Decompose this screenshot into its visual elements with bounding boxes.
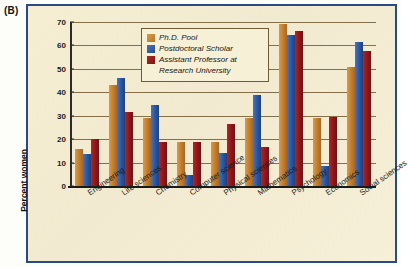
- bar: [295, 31, 303, 186]
- bar-group: [274, 22, 308, 186]
- y-axis-tick-label: 10: [57, 158, 66, 167]
- legend-label-assistant-prof-line2: Research University: [159, 66, 231, 76]
- y-axis-tick-label: 30: [57, 111, 66, 120]
- legend-label-phd-pool: Ph.D. Pool: [159, 33, 197, 43]
- legend-item-continuation: Research University: [147, 66, 263, 76]
- legend-swatch-postdoc-icon: [147, 45, 155, 53]
- y-axis-tick-mark: [70, 22, 74, 23]
- chart-frame: Percent women 010203040506070 Engineerin…: [26, 4, 397, 263]
- bar: [125, 112, 133, 186]
- y-axis-tick-label: 20: [57, 135, 66, 144]
- legend-label-postdoc: Postdoctoral Scholar: [159, 44, 233, 54]
- y-axis-tick-mark: [70, 139, 74, 140]
- y-axis-tick-label: 40: [57, 88, 66, 97]
- legend-item: Ph.D. Pool: [147, 33, 263, 43]
- y-axis-tick-mark: [70, 68, 74, 69]
- bar: [287, 35, 295, 186]
- bar: [355, 42, 363, 186]
- legend-swatch-assistant-prof-icon: [147, 56, 155, 64]
- legend-item: Postdoctoral Scholar: [147, 44, 263, 54]
- y-axis-tick-label: 70: [57, 18, 66, 27]
- chart-legend: Ph.D. Pool Postdoctoral Scholar Assistan…: [141, 28, 269, 82]
- y-axis-tick-label: 0: [62, 182, 66, 191]
- bar: [329, 117, 337, 186]
- bar: [159, 142, 167, 187]
- bar: [279, 24, 287, 186]
- bar-group: [342, 22, 376, 186]
- y-axis-tick-mark: [70, 186, 74, 187]
- y-axis-tick-mark: [70, 45, 74, 46]
- bar-group: [70, 22, 104, 186]
- bar-group: [104, 22, 138, 186]
- bar: [91, 139, 99, 186]
- y-axis-label: Percent women: [19, 149, 29, 212]
- bar: [83, 154, 91, 186]
- x-axis-tick-labels: EngineeringLife sciencesChemistryCompute…: [70, 188, 376, 258]
- bar: [227, 124, 235, 186]
- y-axis-tick-label: 60: [57, 41, 66, 50]
- y-axis-tick-mark: [70, 162, 74, 163]
- bar-group: [308, 22, 342, 186]
- y-axis-tick-mark: [70, 92, 74, 93]
- bar: [193, 142, 201, 186]
- legend-item: Assistant Professor at: [147, 55, 263, 65]
- y-axis-tick-label: 50: [57, 64, 66, 73]
- panel-letter: (B): [4, 5, 18, 16]
- y-axis-tick-mark: [70, 115, 74, 116]
- bar: [363, 51, 371, 186]
- legend-swatch-phd-pool-icon: [147, 34, 155, 42]
- legend-label-assistant-prof: Assistant Professor at: [159, 55, 237, 65]
- bar: [75, 149, 83, 186]
- legend-swatch-spacer-icon: [147, 67, 155, 75]
